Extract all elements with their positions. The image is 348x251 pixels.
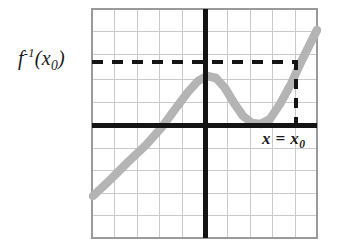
label-argument: x [42,47,51,69]
inverse-function-value-label: f-1(x0) [18,47,65,72]
x-label-value-subscript: 0 [299,138,305,151]
x-value-label: x = x0 [262,130,305,151]
graph-figure: f-1(x0) x = x0 [0,0,348,251]
label-superscript: -1 [24,46,35,60]
x-label-equals: = [276,129,286,148]
x-label-variable: x [262,129,271,148]
label-close-paren: ) [58,47,65,69]
function-graph [0,0,348,251]
label-open-paren: ( [35,47,42,69]
x-label-value: x [290,129,299,148]
label-argument-subscript: 0 [51,58,58,73]
